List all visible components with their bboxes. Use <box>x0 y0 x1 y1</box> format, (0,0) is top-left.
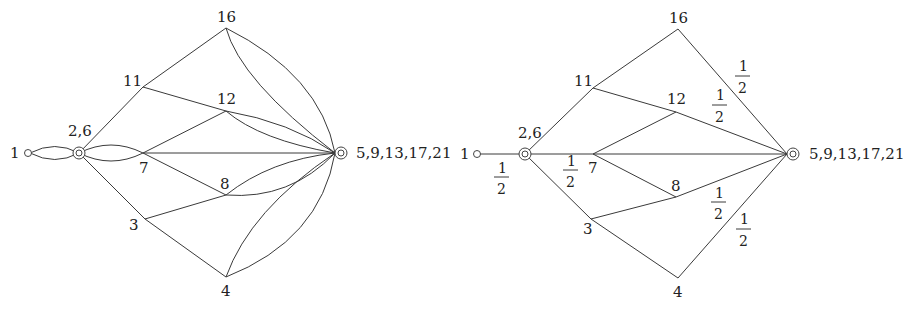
weight-4-sink: 1 2 <box>736 211 751 249</box>
fraction-numerator: 1 <box>498 160 507 176</box>
edge-16-sink-b <box>226 28 335 153</box>
edge-1-26-upper <box>30 147 79 154</box>
edge-26-3 <box>79 153 145 219</box>
fraction-denominator: 2 <box>497 181 506 197</box>
edge-26-7-lower <box>79 153 143 161</box>
node-1 <box>474 151 481 158</box>
fraction-numerator: 1 <box>715 185 724 201</box>
node-2-6-inner <box>76 150 82 156</box>
fraction-denominator: 2 <box>566 174 575 190</box>
label-node-16: 16 <box>217 8 236 26</box>
label-node-7: 7 <box>139 159 149 177</box>
weight-26-7: 1 2 <box>563 153 578 190</box>
edge-3-8 <box>145 195 226 219</box>
label-node-1: 1 <box>10 144 20 162</box>
label-node-4: 4 <box>221 282 231 300</box>
fraction-numerator: 1 <box>567 153 576 169</box>
fraction-denominator: 2 <box>739 233 748 249</box>
edge-11-16 <box>593 29 678 88</box>
edge-7-12 <box>593 112 676 154</box>
edge-7-8 <box>593 154 676 197</box>
label-node-11: 11 <box>574 72 593 90</box>
label-node-8: 8 <box>220 175 230 193</box>
weight-1-26: 1 2 <box>494 160 509 197</box>
edge-11-12 <box>593 88 676 112</box>
edge-8-sink-b <box>226 153 335 195</box>
label-node-12: 12 <box>667 90 686 108</box>
fraction-numerator: 1 <box>716 87 725 103</box>
fraction-denominator: 2 <box>738 80 747 96</box>
edge-3-8 <box>591 197 676 219</box>
edge-12-sink <box>226 111 335 153</box>
label-node-11: 11 <box>123 72 142 90</box>
label-node-3: 3 <box>583 220 593 238</box>
edge-12-sink <box>676 112 787 154</box>
label-node-7: 7 <box>588 159 598 177</box>
right-graph: 1 2,6 7 11 16 12 8 3 4 5,9,13,17,21 1 2 … <box>460 9 904 301</box>
edge-1-26-lower <box>30 153 79 160</box>
label-node-3: 3 <box>129 216 139 234</box>
fraction-numerator: 1 <box>739 58 748 74</box>
label-node-2-6: 2,6 <box>68 122 92 140</box>
edge-4-sink <box>678 154 787 278</box>
edge-26-3 <box>525 154 591 219</box>
fraction-denominator: 2 <box>714 206 723 222</box>
node-1 <box>25 150 32 157</box>
node-sink-inner <box>338 150 344 156</box>
edge-3-4 <box>591 219 678 278</box>
fraction-numerator: 1 <box>740 211 749 227</box>
label-node-1: 1 <box>460 145 470 163</box>
weight-8-sink: 1 2 <box>711 185 726 222</box>
edge-4-sink-b <box>226 153 335 277</box>
edge-3-4 <box>145 219 226 277</box>
left-graph: 1 2,6 7 11 16 12 8 3 4 5,9,13,17,21 <box>10 8 451 300</box>
label-node-16: 16 <box>669 9 688 27</box>
edge-7-12 <box>143 111 226 153</box>
label-node-2-6: 2,6 <box>518 124 542 142</box>
edge-7-8 <box>143 153 226 195</box>
label-node-sink: 5,9,13,17,21 <box>809 145 904 163</box>
node-sink-inner <box>790 151 796 157</box>
edge-4-sink-a <box>226 153 335 277</box>
node-2-6-inner <box>522 151 528 157</box>
edge-26-11 <box>525 88 593 154</box>
edge-8-sink <box>676 154 787 197</box>
edge-11-16 <box>143 28 226 87</box>
graph-diagram-canvas: 1 2,6 7 11 16 12 8 3 4 5,9,13,17,21 1 <box>0 0 910 312</box>
label-node-12: 12 <box>217 90 236 108</box>
edge-26-11 <box>79 87 143 153</box>
label-node-8: 8 <box>671 177 681 195</box>
label-node-4: 4 <box>673 283 683 301</box>
fraction-denominator: 2 <box>715 109 724 125</box>
edge-26-7-upper <box>79 145 143 153</box>
edge-16-sink-a <box>226 28 335 153</box>
weight-12-sink: 1 2 <box>712 87 727 125</box>
weight-16-sink: 1 2 <box>735 58 750 96</box>
edge-16-sink <box>678 29 787 154</box>
label-node-sink: 5,9,13,17,21 <box>356 144 451 162</box>
